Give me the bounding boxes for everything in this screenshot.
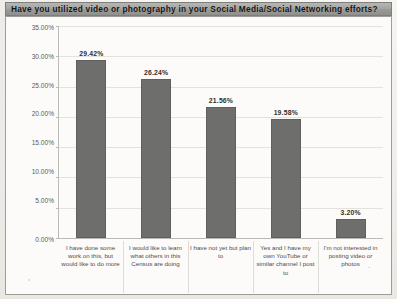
x-axis-category-label: Yes and I have my own YouTube or similar… — [253, 241, 318, 293]
bar[interactable] — [76, 60, 106, 238]
y-axis-tick-label: 5.00% — [14, 196, 54, 203]
category-separator — [188, 241, 189, 293]
category-separator — [318, 241, 319, 293]
category-separator — [123, 241, 124, 293]
bar[interactable] — [271, 119, 301, 238]
y-axis-tick-label: 20.00% — [14, 110, 54, 117]
bar-value-label: 26.24% — [144, 69, 168, 76]
bar-value-label: 29.42% — [79, 50, 103, 57]
x-axis-category-labels: I have done some work on this, but would… — [58, 241, 383, 293]
x-axis-category-label: I have not yet but plan to — [188, 241, 253, 293]
y-axis-tick-label: 30.00% — [14, 52, 54, 59]
x-axis-category-label: I'm not interested in posting video or p… — [318, 241, 383, 293]
bar-series: 29.42%26.24%21.56%19.58%3.20% — [59, 27, 383, 238]
bar-value-label: 21.56% — [209, 97, 233, 104]
bar-value-label: 19.58% — [274, 109, 298, 116]
plot-area: 29.42%26.24%21.56%19.58%3.20% — [58, 27, 383, 239]
scan-speck — [368, 267, 370, 268]
chart-frame: 35.00% 30.00% 25.00% 20.00% 15.00% 10.00… — [5, 16, 392, 295]
y-axis-tick-mark — [56, 238, 59, 239]
chart-page: Have you utilized video or photography i… — [0, 0, 397, 299]
bar-slot: 3.20% — [318, 27, 383, 238]
bar[interactable] — [141, 79, 171, 238]
bar[interactable] — [206, 107, 236, 238]
chart-title-band: Have you utilized video or photography i… — [5, 2, 392, 16]
category-separator — [253, 241, 254, 293]
scan-speck — [28, 279, 30, 281]
bar-slot: 19.58% — [253, 27, 318, 238]
plot-area-wrapper: 35.00% 30.00% 25.00% 20.00% 15.00% 10.00… — [6, 17, 391, 294]
y-axis-tick-label: 25.00% — [14, 81, 54, 88]
x-axis-category-label: I would like to learn what others in thi… — [123, 241, 188, 293]
x-axis-category-label: I have done some work on this, but would… — [58, 241, 123, 293]
page-title: Have you utilized video or photography i… — [6, 4, 378, 14]
bar-slot: 29.42% — [59, 27, 124, 238]
y-axis-tick-label: 10.00% — [14, 168, 54, 175]
bar[interactable] — [336, 219, 366, 238]
y-axis-tick-label: 15.00% — [14, 139, 54, 146]
bar-value-label: 3.20% — [340, 209, 360, 216]
bar-slot: 26.24% — [124, 27, 189, 238]
y-axis-tick-label: 35.00% — [14, 24, 54, 31]
y-axis-tick-label: 0.00% — [14, 235, 54, 242]
gridline — [59, 238, 383, 239]
bar-slot: 21.56% — [189, 27, 254, 238]
